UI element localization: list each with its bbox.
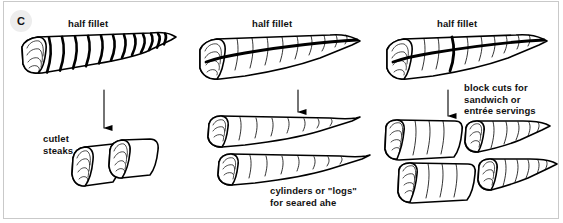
fillet-whole-middle <box>200 35 360 79</box>
log-piece-lower <box>218 154 370 185</box>
block-cut-lower-right <box>478 159 557 190</box>
diagram-artwork <box>0 0 563 223</box>
cutlet-steak-back <box>109 139 158 178</box>
log-piece-upper <box>208 116 360 147</box>
fillet-whole-right <box>387 35 547 79</box>
block-cut-lower-left <box>398 163 475 203</box>
figure-panel-c: C half fillet cutlet steaks half fillet … <box>0 0 563 223</box>
block-cut-upper-left <box>385 120 462 160</box>
block-cut-upper-right <box>465 121 550 152</box>
fillet-whole-left <box>22 33 176 74</box>
